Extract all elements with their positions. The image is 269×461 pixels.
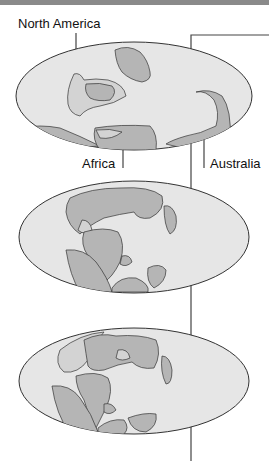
north-america-core bbox=[86, 83, 115, 100]
globe-2 bbox=[19, 181, 249, 293]
globe-1 bbox=[16, 42, 252, 150]
label-africa: Africa bbox=[82, 156, 115, 171]
globe-3 bbox=[19, 328, 249, 434]
label-north-america: North America bbox=[18, 16, 100, 31]
label-australia: Australia bbox=[210, 156, 261, 171]
continental-drift-diagram bbox=[0, 0, 269, 461]
